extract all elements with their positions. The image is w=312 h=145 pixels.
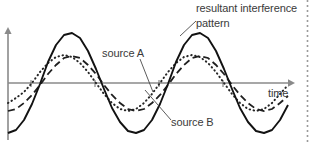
interference-diagram: resultant interference pattern source A … bbox=[0, 0, 312, 145]
x-axis-label-time: time bbox=[268, 87, 288, 99]
label-source-a: source A bbox=[102, 47, 144, 59]
leader-line-source-a bbox=[140, 59, 153, 92]
label-resultant-interference: resultant interference bbox=[196, 2, 297, 14]
y-axis-arrowhead bbox=[4, 27, 11, 34]
label-resultant-pattern: pattern bbox=[196, 17, 230, 29]
wave-plot-svg bbox=[0, 0, 312, 145]
label-source-b: source B bbox=[171, 116, 214, 128]
x-axis-arrowhead bbox=[288, 79, 295, 87]
